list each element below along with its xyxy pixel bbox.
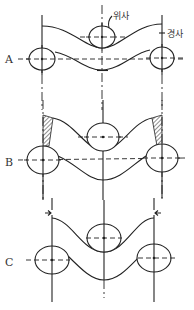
weft-label: 위사: [113, 11, 130, 21]
panel-label-c: C: [5, 256, 13, 269]
hatched-gap-left: [43, 115, 53, 146]
warp-label: 경사: [167, 28, 184, 39]
warp-yarn-bottom-edge: [58, 156, 146, 180]
panel-label-a: A: [4, 53, 14, 66]
arrow-left-icon: [155, 211, 161, 216]
weft-leader-line: [108, 16, 112, 28]
panel-label-b: B: [5, 156, 13, 169]
arrow-right-icon: [45, 211, 51, 216]
panel-c: C: [5, 198, 178, 302]
weave-diagram: A 위사 경사 B: [0, 0, 194, 310]
panel-a: A 위사 경사: [4, 5, 185, 110]
warp-yarn-bottom-edge: [55, 50, 150, 70]
hatched-gap-right: [152, 115, 162, 146]
panel-b: B: [5, 100, 185, 200]
